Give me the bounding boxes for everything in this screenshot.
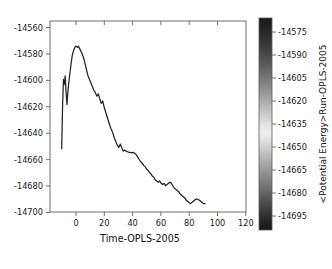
x-axis-tick-labels: 0 20 40 60 80 100 120: [73, 218, 253, 228]
y-tick-label: -14600: [14, 75, 43, 85]
y-tick-label: -14620: [14, 102, 43, 112]
x-axis-ticks: [76, 21, 246, 216]
x-tick-label: 40: [127, 218, 137, 228]
y-tick-label: -14580: [14, 49, 43, 59]
colorbar-ticks: [272, 32, 276, 216]
x-tick-label: 80: [184, 218, 194, 228]
colorbar-tick-label: -14590: [278, 50, 307, 60]
colorbar-tick-label: -14650: [278, 142, 307, 152]
x-tick-label: 60: [156, 218, 166, 228]
figure-container: -14560 -14580 -14600 -14620 -14640 -1466…: [0, 0, 332, 269]
x-tick-label: 120: [238, 218, 254, 228]
x-tick-label: 0: [73, 218, 78, 228]
colorbar-tick-label: -14575: [278, 27, 307, 37]
y-tick-label: -14680: [14, 181, 43, 191]
colorbar-tick-label: -14605: [278, 73, 307, 83]
y-tick-label: -14560: [14, 23, 43, 33]
x-tick-label: 20: [99, 218, 109, 228]
colorbar-gradient: [259, 18, 272, 230]
colorbar-tick-labels: -14575 -14590 -14605 -14620 -14635 -1465…: [278, 27, 307, 221]
colorbar-title: <Potential Energy>Run-OPLS-2005: [318, 44, 328, 203]
colorbar-tick-label: -14680: [278, 188, 307, 198]
data-series-line: [62, 46, 205, 204]
plot-frame: [50, 21, 246, 212]
y-axis-ticks: [46, 28, 50, 213]
y-tick-label: -14640: [14, 128, 43, 138]
y-axis-tick-labels: -14560 -14580 -14600 -14620 -14640 -1466…: [14, 23, 43, 218]
x-axis-title: Time-OPLS-2005: [99, 233, 180, 244]
colorbar-tick-label: -14695: [278, 211, 307, 221]
colorbar-tick-label: -14620: [278, 96, 307, 106]
y-tick-label: -14660: [14, 155, 43, 165]
x-tick-label: 100: [210, 218, 226, 228]
y-tick-label: -14700: [14, 207, 43, 217]
colorbar-tick-label: -14665: [278, 165, 307, 175]
chart-canvas: -14560 -14580 -14600 -14620 -14640 -1466…: [0, 0, 332, 269]
colorbar-tick-label: -14635: [278, 119, 307, 129]
